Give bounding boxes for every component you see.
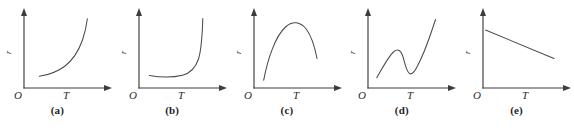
y-axis-arrow-d: [365, 8, 371, 16]
x-axis-label-d: T: [407, 89, 414, 101]
chart-panel-a: O T r (a): [0, 0, 115, 128]
plot-area-c: O T r: [230, 0, 345, 104]
curve-e: [486, 30, 554, 58]
chart-panel-c: O T r (c): [230, 0, 345, 128]
panel-caption-c: (c): [230, 104, 345, 116]
x-axis-arrow-d: [448, 85, 456, 91]
x-axis-label-e: T: [522, 89, 529, 101]
y-axis-arrow-c: [251, 8, 257, 16]
y-axis-label-c: r: [233, 50, 243, 54]
x-axis-arrow-a: [104, 85, 112, 91]
origin-label-d: O: [358, 89, 366, 101]
curve-b: [149, 19, 202, 77]
figure-panel-row: O T r (a) O T r (b): [0, 0, 574, 128]
y-axis-label-d: r: [347, 50, 357, 54]
x-axis-arrow-e: [563, 85, 571, 91]
origin-label-b: O: [129, 89, 137, 101]
x-axis-arrow-b: [219, 85, 227, 91]
origin-label-c: O: [244, 89, 252, 101]
x-axis-label-c: T: [293, 89, 300, 101]
y-axis-arrow-e: [480, 8, 486, 16]
plot-area-b: O T r: [115, 0, 230, 104]
curve-d: [377, 20, 436, 78]
x-axis-label-a: T: [63, 89, 70, 101]
curve-c: [263, 23, 316, 80]
plot-area-d: O T r: [344, 0, 459, 104]
chart-panel-d: O T r (d): [344, 0, 459, 128]
origin-label-e: O: [473, 89, 481, 101]
x-axis-label-b: T: [178, 89, 185, 101]
y-axis-label-e: r: [462, 50, 472, 54]
origin-label-a: O: [14, 89, 22, 101]
chart-panel-b: O T r (b): [115, 0, 230, 128]
x-axis-arrow-c: [334, 85, 342, 91]
y-axis-arrow-a: [21, 8, 27, 16]
y-axis-label-b: r: [118, 50, 128, 54]
plot-area-e: O T r: [459, 0, 574, 104]
panel-caption-d: (d): [344, 104, 459, 116]
chart-panel-e: O T r (e): [459, 0, 574, 128]
panel-caption-e: (e): [459, 104, 574, 116]
curve-a: [39, 19, 87, 77]
panel-caption-a: (a): [0, 104, 115, 116]
y-axis-arrow-b: [136, 8, 142, 16]
plot-area-a: O T r: [0, 0, 115, 104]
panel-caption-b: (b): [115, 104, 230, 116]
y-axis-label-a: r: [3, 50, 13, 54]
